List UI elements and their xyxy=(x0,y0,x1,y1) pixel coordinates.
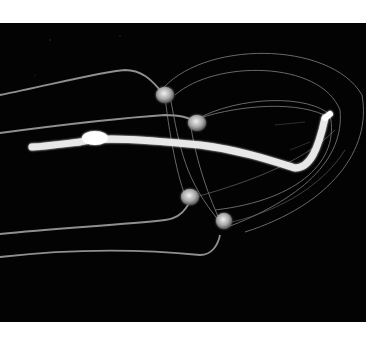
jellyfish-photo: Translucent box jellyfish with four trai… xyxy=(0,23,366,322)
tentacles xyxy=(0,70,220,257)
pedalia xyxy=(156,87,232,229)
jellyfish-illustration xyxy=(0,23,366,322)
manubrium xyxy=(32,114,330,168)
